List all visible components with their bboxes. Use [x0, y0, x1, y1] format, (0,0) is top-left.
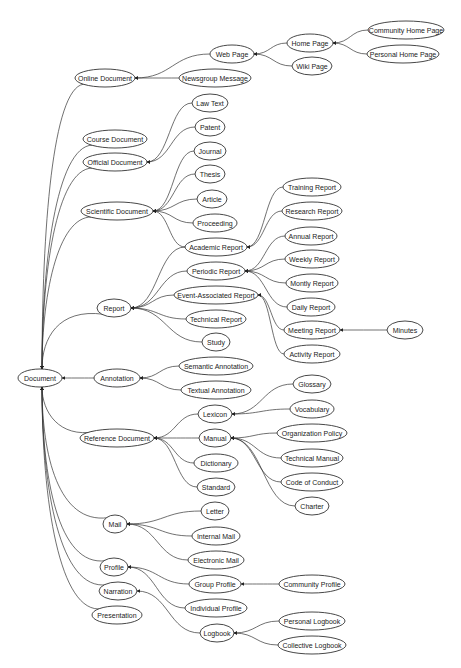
node-community-profile: Community Profile: [279, 575, 345, 593]
node-textual-annotation: Textual Annotation: [181, 381, 251, 399]
node-document: Document: [18, 369, 62, 387]
edge-presentation-to-document: [42, 387, 102, 609]
edge-group_profile-to-profile: [128, 567, 189, 584]
node-label: Journal: [199, 148, 222, 155]
node-label: Meeting Report: [288, 327, 336, 335]
node-article: Article: [197, 190, 227, 208]
node-label: Training Report: [288, 184, 336, 192]
node-dictionary: Dictionary: [194, 454, 238, 472]
node-label: Electronic Mail: [193, 557, 239, 564]
node-home-page: Home Page: [287, 34, 333, 52]
node-label: Home Page: [292, 40, 329, 48]
node-label: Minutes: [393, 327, 418, 334]
edge-charter-to-manual: [231, 438, 295, 506]
node-label: Document: [24, 375, 56, 382]
edge-semantic_annotation-to-annotation: [140, 366, 179, 378]
node-collective-logbook: Collective Logbook: [278, 636, 346, 654]
edge-technical_manual-to-manual: [231, 438, 281, 458]
node-vocabulary: Vocabulary: [290, 400, 334, 418]
node-electronic-mail: Electronic Mail: [188, 551, 244, 569]
edge-annual_report-to-periodic_report: [245, 236, 285, 271]
node-personal-home-page: Personal Home Page: [367, 45, 439, 63]
edge-personal_logbook-to-logbook: [234, 621, 279, 633]
node-group-profile: Group Profile: [189, 575, 241, 593]
node-logbook: Logbook: [200, 624, 234, 642]
node-activity-report: Activity Report: [284, 345, 340, 363]
edge-official_document-to-document: [42, 168, 96, 369]
node-monthly-report: Montly Report: [286, 274, 338, 292]
node-technical-report: Technical Report: [186, 310, 246, 328]
node-standard: Standard: [197, 478, 235, 496]
node-wiki-page: Wiki Page: [292, 57, 332, 75]
node-charter: Charter: [295, 497, 329, 515]
node-label: Patent: [200, 124, 220, 131]
node-label: Event-Associated Report: [177, 292, 254, 300]
node-label: Internal Mail: [197, 533, 236, 540]
node-narration: Narration: [99, 582, 137, 600]
node-technical-manual: Technical Manual: [281, 449, 343, 467]
node-scientific-document: Scientific Document: [81, 202, 153, 220]
node-individual-profile: Individual Profile: [185, 599, 247, 617]
node-label: Organization Policy: [282, 430, 343, 438]
node-label: Glossary: [298, 381, 326, 389]
edge-study-to-report: [131, 308, 202, 342]
edge-home_page-to-web_page: [254, 43, 287, 54]
node-label: Scientific Document: [86, 208, 148, 215]
node-label: Reference Document: [84, 435, 150, 442]
node-label: Collective Logbook: [282, 642, 342, 650]
node-label: Official Document: [87, 159, 142, 166]
node-research-report: Research Report: [282, 202, 342, 220]
node-label: Group Profile: [194, 581, 235, 589]
edge-research_report-to-academic_report: [247, 211, 282, 247]
node-label: Wiki Page: [296, 63, 328, 71]
node-academic-report: Academic Report: [185, 238, 247, 256]
node-label: Web Page: [216, 51, 249, 59]
edge-law_text-to-official_document: [147, 103, 192, 162]
node-label: Research Report: [286, 208, 339, 216]
node-label: Lexicon: [203, 411, 227, 418]
node-label: Dictionary: [200, 460, 232, 468]
edge-event_associated_report-to-report: [131, 295, 174, 308]
node-label: Code of Conduct: [286, 479, 339, 486]
node-profile: Profile: [100, 558, 128, 576]
edge-online_document-to-document: [42, 84, 87, 369]
node-label: Academic Report: [189, 244, 243, 252]
edge-patent-to-official_document: [147, 127, 195, 162]
node-annual-report: Annual Report: [285, 227, 337, 245]
node-training-report: Training Report: [283, 178, 341, 196]
node-label: Thesis: [200, 171, 221, 178]
node-label: Personal Home Page: [370, 51, 437, 59]
node-lexicon: Lexicon: [198, 405, 232, 423]
edge-community_home_page-to-home_page: [333, 30, 368, 43]
edge-activity_report-to-event_associated_report: [258, 295, 284, 354]
node-patent: Patent: [195, 118, 225, 136]
node-code-of-conduct: Code of Conduct: [281, 473, 343, 491]
node-label: Periodic Report: [192, 268, 240, 276]
edge-code_of_conduct-to-manual: [231, 438, 281, 482]
node-layer: DocumentOnline DocumentWeb PageNewsgroup…: [18, 21, 444, 654]
node-label: Annual Report: [289, 233, 334, 241]
node-label: Newsgroup Message: [182, 75, 248, 83]
node-glossary: Glossary: [293, 375, 331, 393]
node-internal-mail: Internal Mail: [192, 527, 240, 545]
node-label: Vocabulary: [295, 406, 330, 414]
node-label: Letter: [206, 508, 225, 515]
node-personal-logbook: Personal Logbook: [279, 612, 345, 630]
node-annotation: Annotation: [94, 369, 140, 387]
node-label: Daily Report: [292, 304, 331, 312]
node-course-document: Course Document: [83, 130, 147, 148]
node-proceeding: Proceeding: [193, 214, 237, 232]
node-label: Online Document: [78, 75, 132, 82]
node-label: Law Text: [196, 100, 224, 107]
edge-textual_annotation-to-annotation: [140, 378, 181, 390]
node-label: Annotation: [100, 375, 134, 382]
node-newsgroup-message: Newsgroup Message: [179, 69, 251, 87]
node-label: Presentation: [97, 612, 136, 619]
node-label: Technical Manual: [285, 455, 340, 462]
node-thesis: Thesis: [195, 165, 225, 183]
node-official-document: Official Document: [83, 153, 147, 171]
node-periodic-report: Periodic Report: [187, 262, 245, 280]
edge-journal-to-scientific_document: [153, 151, 194, 211]
node-mail: Mail: [103, 515, 127, 533]
edge-weekly_report-to-periodic_report: [245, 259, 285, 271]
